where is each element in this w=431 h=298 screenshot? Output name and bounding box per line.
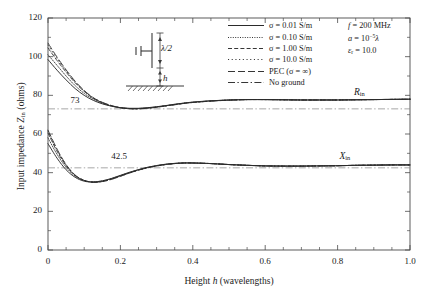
x-tick-label: 0	[33, 256, 63, 266]
legend-line-sample	[228, 77, 264, 88]
rin-subscript: in	[360, 91, 365, 98]
x-tick-label: 0.4	[178, 256, 208, 266]
inset-height-text: h	[163, 73, 168, 83]
dim-arrow-lambda	[158, 37, 162, 41]
x-tick-label: 1.0	[395, 256, 425, 266]
ground-hatch	[163, 86, 168, 91]
radius-value-pre: = 10	[352, 34, 369, 43]
legend-label: σ = 10.0 S/m	[269, 55, 312, 64]
curve-xin-series-0	[48, 144, 410, 182]
y-tick-label: 120	[16, 12, 42, 22]
x-tick-label: 0.8	[323, 256, 353, 266]
inset-length-label: λ/2	[161, 43, 172, 53]
legend-line-sample	[228, 54, 264, 65]
curve-label-xin: Xin	[339, 151, 350, 161]
frequency-value: = 200 MHz	[350, 21, 390, 30]
reference-label-425: 42.5	[111, 151, 127, 161]
legend-line-sample	[228, 66, 264, 77]
dim-arrow-h	[158, 80, 162, 84]
ground-hatch	[128, 86, 133, 91]
dim-arrow-h	[158, 71, 162, 75]
ground-hatch	[133, 86, 138, 91]
legend-item[interactable]: σ = 0.01 S/m	[228, 20, 312, 31]
legend-line-sample	[228, 32, 264, 43]
legend-line-sample	[228, 20, 264, 31]
legend-item[interactable]: σ = 10.0 S/m	[228, 54, 312, 65]
ground-hatch	[168, 86, 173, 91]
legend-item[interactable]: σ = 1.00 S/m	[228, 43, 312, 54]
curve-xin-series-1	[48, 138, 410, 182]
legend-label: No ground	[269, 78, 305, 87]
ground-hatch	[138, 86, 143, 91]
legend-label: σ = 0.01 S/m	[269, 21, 312, 30]
reference-label-73: 73	[70, 95, 79, 105]
inset-dipole-diagram	[126, 33, 184, 91]
legend-item[interactable]: PEC (σ = ∞)	[228, 66, 312, 77]
y-tick-label: 20	[16, 205, 42, 215]
permittivity-value: = 10.0	[353, 46, 376, 55]
legend-line-sample	[228, 43, 264, 54]
x-tick-label: 0.2	[105, 256, 135, 266]
legend-label: PEC (σ = ∞)	[269, 67, 311, 76]
inset-height-label: h	[163, 73, 168, 83]
curve-xin-series-2	[48, 133, 410, 182]
legend-label: σ = 0.10 S/m	[269, 33, 312, 42]
figure-container: Input impedance Zin (ohms) Height h (wav…	[0, 0, 431, 298]
parameter-radius: a = 10−5λ	[348, 31, 391, 44]
parameter-annotations: f = 200 MHz a = 10−5λ εr = 10.0	[348, 20, 391, 58]
curve-label-rin: Rin	[354, 87, 365, 97]
y-tick-label: 100	[16, 51, 42, 61]
y-tick-label: 40	[16, 167, 42, 177]
y-tick-label: 80	[16, 89, 42, 99]
inset-length-text: λ/2	[161, 43, 172, 53]
ground-hatch	[158, 86, 163, 91]
parameter-frequency: f = 200 MHz	[348, 20, 391, 31]
legend-item[interactable]: No ground	[228, 77, 312, 88]
legend-label: σ = 1.00 S/m	[269, 44, 312, 53]
ground-hatch	[153, 86, 158, 91]
parameter-permittivity: εr = 10.0	[348, 45, 391, 59]
xin-subscript: in	[345, 155, 350, 162]
x-tick-label: 0.6	[250, 256, 280, 266]
ground-hatch	[143, 86, 148, 91]
y-tick-label: 60	[16, 128, 42, 138]
legend: σ = 0.01 S/mσ = 0.10 S/mσ = 1.00 S/mσ = …	[228, 20, 312, 88]
dim-arrow-lambda	[158, 60, 162, 64]
ground-hatch	[148, 86, 153, 91]
curve-xin-series-3	[48, 131, 410, 182]
curve-xin-series-4	[48, 130, 410, 182]
y-tick-label: 0	[16, 244, 42, 254]
legend-item[interactable]: σ = 0.10 S/m	[228, 31, 312, 42]
radius-value-post: λ	[375, 34, 379, 43]
